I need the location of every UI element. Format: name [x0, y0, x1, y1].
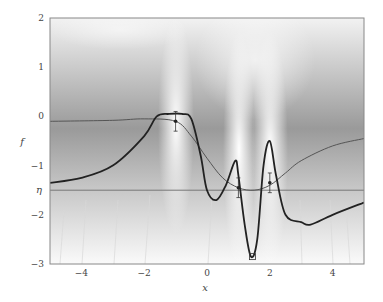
y-axis-label: f: [19, 136, 26, 147]
plot-area: [50, 0, 364, 270]
y-tick-label: 0: [38, 111, 44, 121]
chart: 210−1−2−3 −4−2024 η x f: [0, 0, 383, 302]
x-tick-label: −4: [75, 268, 89, 278]
y-tick-label: 1: [38, 62, 44, 72]
x-tick-label: 0: [204, 268, 210, 278]
x-axis-label: x: [202, 282, 208, 293]
y-tick-label: −3: [31, 259, 45, 269]
y-tick-label: −1: [31, 161, 44, 171]
x-tick-label: −2: [138, 268, 151, 278]
observation-point: [237, 186, 241, 190]
x-axis: −4−2024: [75, 268, 336, 278]
y-tick-label: −2: [31, 210, 44, 220]
y-axis: 210−1−2−3: [31, 13, 45, 269]
observation-point: [174, 120, 178, 124]
observation-point: [268, 181, 272, 185]
eta-label: η: [36, 184, 42, 195]
x-tick-label: 4: [330, 268, 336, 278]
x-tick-label: 2: [267, 268, 273, 278]
y-tick-label: 2: [38, 13, 44, 23]
